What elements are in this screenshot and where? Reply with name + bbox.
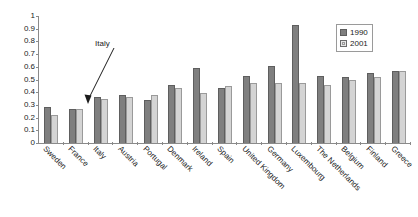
bar-1990 xyxy=(44,107,51,143)
bar-1990 xyxy=(367,73,374,143)
bar-2001 xyxy=(374,77,381,143)
bar-1990 xyxy=(317,76,324,143)
bar-2001 xyxy=(299,83,306,143)
x-axis-tick-mark xyxy=(286,142,287,145)
bar-2001 xyxy=(200,93,207,143)
bar-1990 xyxy=(193,68,200,143)
bar-2001 xyxy=(101,99,108,143)
bar-group xyxy=(262,16,287,143)
bar-1990 xyxy=(69,109,76,143)
bar-2001 xyxy=(250,83,257,143)
x-axis-tick-mark xyxy=(261,142,262,145)
bar-1990 xyxy=(268,66,275,143)
legend-swatch-2001 xyxy=(340,40,347,47)
y-axis-tick-label: 1 xyxy=(1,12,39,20)
bar-group xyxy=(213,16,238,143)
x-axis-tick-mark xyxy=(236,142,237,145)
annotation-label-italy: Italy xyxy=(95,40,110,48)
bar-2001 xyxy=(151,95,158,143)
x-axis-tick-mark xyxy=(112,142,113,145)
x-axis-tick-mark xyxy=(385,142,386,145)
x-axis-tick-mark xyxy=(88,142,89,145)
y-axis-tick-label: 0.6 xyxy=(1,63,39,71)
legend-swatch-1990 xyxy=(340,29,347,36)
bar-group xyxy=(237,16,262,143)
bar-2001 xyxy=(126,97,133,143)
y-axis-tick-label: 0 xyxy=(1,139,39,147)
bar-2001 xyxy=(175,88,182,143)
legend-item-1990: 1990 xyxy=(340,27,368,38)
bar-group xyxy=(188,16,213,143)
bar-chart: 00.10.20.30.40.50.60.70.80.91 SwedenFran… xyxy=(0,0,418,217)
x-axis-tick-label: Ireland xyxy=(191,145,214,168)
x-axis-tick-label: Italy xyxy=(91,145,107,161)
x-axis-tick-mark xyxy=(410,142,411,145)
x-axis-tick-label: Spain xyxy=(215,145,235,165)
y-axis-tick-label: 0.3 xyxy=(1,101,39,109)
bar-group xyxy=(163,16,188,143)
bar-1990 xyxy=(94,97,101,143)
legend: 1990 2001 xyxy=(336,24,373,52)
x-axis-tick-label: Sweden xyxy=(42,145,68,171)
bar-group xyxy=(39,16,64,143)
bar-group xyxy=(64,16,89,143)
y-axis-tick-label: 0.5 xyxy=(1,76,39,84)
y-axis-tick-label: 0.2 xyxy=(1,114,39,122)
x-axis-tick-label: France xyxy=(67,145,90,168)
y-axis-tick-label: 0.1 xyxy=(1,126,39,134)
y-axis-tick-label: 0.4 xyxy=(1,88,39,96)
bar-1990 xyxy=(218,88,225,143)
bar-1990 xyxy=(144,100,151,143)
bar-group xyxy=(113,16,138,143)
bar-2001 xyxy=(51,115,58,143)
x-axis-tick-mark xyxy=(336,142,337,145)
bar-2001 xyxy=(225,86,232,143)
x-axis-tick-label: Greece xyxy=(389,145,413,169)
x-axis-tick-label: Finland xyxy=(364,145,388,169)
x-axis-tick-mark xyxy=(187,142,188,145)
x-axis-tick-mark xyxy=(63,142,64,145)
bar-group xyxy=(287,16,312,143)
bar-1990 xyxy=(243,76,250,143)
bar-2001 xyxy=(324,85,331,143)
x-axis-labels: SwedenFranceItalyAustriaPortugalDenmarkI… xyxy=(38,145,410,217)
bar-2001 xyxy=(76,109,83,143)
bar-1990 xyxy=(119,95,126,143)
bar-1990 xyxy=(392,71,399,143)
bar-group xyxy=(312,16,337,143)
x-axis-tick-mark xyxy=(137,142,138,145)
legend-label-1990: 1990 xyxy=(350,29,368,37)
x-axis-tick-mark xyxy=(212,142,213,145)
y-axis-tick-label: 0.7 xyxy=(1,50,39,58)
legend-label-2001: 2001 xyxy=(350,40,368,48)
x-axis-tick-label: Portugal xyxy=(141,145,168,172)
x-axis-tick-mark xyxy=(162,142,163,145)
bar-2001 xyxy=(349,80,356,144)
bar-group xyxy=(89,16,114,143)
x-axis-tick-mark xyxy=(311,142,312,145)
x-axis-tick-mark xyxy=(360,142,361,145)
bar-2001 xyxy=(275,83,282,143)
legend-item-2001: 2001 xyxy=(340,38,368,49)
bar-1990 xyxy=(342,77,349,143)
x-axis-tick-label: The Netherlands xyxy=(315,145,362,192)
bar-group xyxy=(138,16,163,143)
bar-1990 xyxy=(292,25,299,143)
y-axis-tick-label: 0.8 xyxy=(1,37,39,45)
bar-1990 xyxy=(168,85,175,143)
x-axis-tick-label: Austria xyxy=(116,145,139,168)
bar-group xyxy=(386,16,411,143)
bar-2001 xyxy=(399,71,406,143)
y-axis-tick-label: 0.9 xyxy=(1,25,39,33)
y-axis-tick-mark xyxy=(36,143,39,144)
